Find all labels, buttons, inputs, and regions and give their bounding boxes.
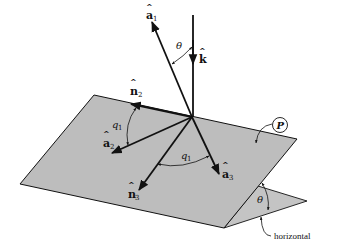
- theta-incline-label: θ: [257, 194, 263, 205]
- theta-top-label: θ: [176, 40, 182, 51]
- svg-text:n: n: [130, 85, 138, 98]
- n2-label: ^ n 2: [130, 76, 142, 99]
- horizontal-leader: [261, 217, 271, 236]
- svg-text:k: k: [199, 53, 207, 66]
- svg-text:3: 3: [135, 194, 139, 202]
- plane-label: P: [276, 120, 285, 131]
- inclined-plane-diagram: P ^ a 1 ^ k θ ^ n 2 q 1 ^ a 2 q 1 ^ a 3 …: [0, 0, 338, 246]
- svg-text:2: 2: [110, 143, 114, 151]
- a1-label: ^ a 1: [146, 1, 157, 23]
- svg-text:2: 2: [138, 91, 142, 99]
- horizontal-label: horizontal: [274, 231, 311, 241]
- k-label: ^ k: [199, 45, 207, 66]
- svg-text:1: 1: [118, 124, 122, 132]
- svg-text:1: 1: [153, 15, 157, 23]
- a1-vector: [152, 22, 192, 117]
- svg-text:3: 3: [229, 174, 233, 182]
- svg-text:1: 1: [187, 155, 191, 163]
